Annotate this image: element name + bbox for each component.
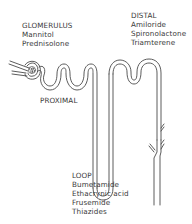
distal-tubule — [109, 59, 161, 140]
glomerulus-title: GLOMERULUS — [22, 21, 72, 30]
glomerulus-label: GLOMERULUS Mannitol Prednisolone — [22, 21, 72, 48]
loop-drug: Thiazides — [72, 207, 129, 216]
proximal-tubule — [38, 64, 97, 188]
loop-drug: Frusemide — [72, 198, 129, 207]
proximal-title: PROXIMAL — [40, 96, 78, 105]
glomerular-tuft — [28, 66, 35, 73]
loop-title: LOOP — [72, 171, 129, 180]
distal-drug: Triamterene — [131, 38, 186, 47]
loop-drug: Bumetamide — [72, 180, 129, 189]
glomerulus-drug: Mannitol — [22, 30, 72, 39]
loop-drug: Ethacrynic acid — [72, 189, 129, 198]
loop-label: LOOP Bumetamide Ethacrynic acid Frusemid… — [72, 171, 129, 216]
distal-label: DISTAL Amiloride Spironolactone Triamter… — [131, 11, 186, 47]
distal-title: DISTAL — [131, 11, 186, 20]
distal-drug: Spironolactone — [131, 29, 186, 38]
distal-drug: Amiloride — [131, 20, 186, 29]
collecting-duct — [149, 124, 164, 205]
glomerulus-drug: Prednisolone — [22, 39, 72, 48]
proximal-label: PROXIMAL — [40, 96, 78, 105]
